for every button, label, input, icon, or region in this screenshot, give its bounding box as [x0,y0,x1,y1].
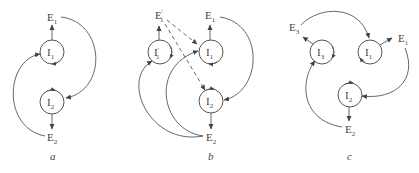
panel-b-caption: b [208,150,214,162]
self-loop-i1 [52,62,58,64]
panel-c-caption: c [347,150,352,162]
node-e2-label: E2 [47,131,58,146]
node-i1-label: I1 [206,46,214,61]
node-e3-label: E3 [289,21,300,36]
node-i2-label: I2 [206,95,214,110]
node-e1-prime-label: E'1 [155,8,164,24]
panel-b: E'1 I'1 E1 I1 I2 E2 b [139,8,253,162]
arrow-e1-to-i2 [220,17,253,100]
node-e2-label: E2 [206,131,217,146]
node-e1-label: E1 [47,11,58,26]
panel-a: E1 I1 I2 E2 a [13,11,96,162]
node-i1-prime-circle [148,40,172,64]
arrow-i1-to-e1 [380,38,392,45]
arrow-i3-to-e3 [303,37,313,44]
node-e1-label: E1 [205,9,216,24]
arrow-e2-to-i3 [306,61,342,127]
node-e2-label: E2 [345,123,356,138]
panel-a-caption: a [50,150,56,162]
node-i1-prime-label: I'1 [154,46,160,61]
arrow-e3-to-i1 [301,11,369,38]
node-i2-label: I2 [345,89,353,104]
self-loop-i3 [332,46,334,58]
panel-c: E3 I3 I1 E1 I2 E2 c [289,11,409,162]
node-i1-label: I1 [47,46,55,61]
node-i2-label: I2 [47,96,55,111]
arrow-e2-to-i1 [13,54,45,136]
arrow-e1-to-i2 [61,17,96,98]
diagram-canvas: E1 I1 I2 E2 a E'1 I'1 E1 [0,0,419,173]
self-loop-i1p [170,46,172,58]
arrow-e2-to-i1 [166,51,203,136]
dashed-arrow-e1p-to-i1 [167,20,197,44]
node-i3-label: I3 [317,46,325,61]
node-i1-label: I1 [365,46,373,61]
self-loop-i1 [209,62,217,64]
node-e1-label: E1 [398,32,409,47]
